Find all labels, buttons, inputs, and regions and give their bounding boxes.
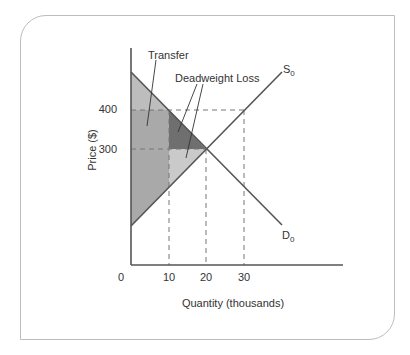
x-tick-10: 10	[163, 271, 175, 283]
supply-label: S0	[283, 63, 295, 78]
y-axis-label: Price ($)	[86, 129, 98, 171]
demand-label: D0	[282, 229, 295, 244]
x-tick-30: 30	[238, 271, 250, 283]
x-axis-label: Quantity (thousands)	[182, 297, 284, 309]
transfer-label: Transfer	[148, 49, 189, 61]
transfer-area	[131, 110, 169, 149]
x-tick-20: 20	[200, 271, 212, 283]
y-tick-300: 300	[99, 143, 117, 155]
deadweight-label: Deadweight Loss	[175, 72, 260, 84]
supply-demand-chart: Transfer Deadweight Loss S0 D0 400 300 0…	[0, 0, 410, 355]
producer-area	[131, 149, 169, 226]
y-tick-400: 400	[99, 103, 117, 115]
x-tick-0: 0	[118, 271, 124, 283]
